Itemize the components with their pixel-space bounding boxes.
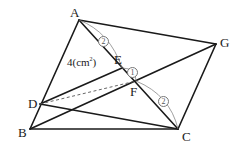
area-label: 4(cm2) [67,56,96,68]
diagram-lines [0,0,240,142]
point-label-E: E [114,53,122,66]
segment-DE [40,68,122,104]
segment-DF-dashed [40,81,136,104]
ratio-EF: 1 [127,67,138,78]
point-label-C: C [182,130,191,142]
point-label-F: F [130,85,137,98]
area-unit-open: (cm [73,56,90,68]
point-label-G: G [220,36,229,49]
point-label-B: B [18,126,27,139]
segment-AB [30,20,79,129]
geometry-diagram: A G E F D B C 4(cm2) 2 1 2 [0,0,240,142]
segment-BG [30,44,216,129]
point-label-A: A [70,6,79,19]
segment-GC [178,44,216,129]
ratio-FC: 2 [158,96,169,107]
area-unit-close: ) [93,56,97,68]
segment-DC [40,104,178,129]
point-label-D: D [28,97,37,110]
ratio-AE: 2 [98,36,109,47]
